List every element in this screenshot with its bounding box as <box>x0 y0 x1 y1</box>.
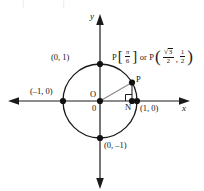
paren-close: ) <box>187 48 193 65</box>
x-coordinate-fraction: √ 3 2 <box>163 48 174 65</box>
y-axis-label: y <box>90 12 94 21</box>
point-p-annotation: P [ π 6 ] or P ( √ 3 2 , 1 2 ) <box>112 48 193 65</box>
label-point-N: N <box>125 103 131 112</box>
bracket-open: [ <box>118 49 123 64</box>
x-axis-label: x <box>182 104 186 113</box>
radicand: 3 <box>168 48 173 56</box>
sqrt-group: √ 3 <box>164 48 173 56</box>
y-coordinate-fraction: 1 2 <box>180 49 186 65</box>
label-point-left: (–1, 0) <box>30 87 53 96</box>
label-point-right: (1, 0) <box>140 104 158 113</box>
y-denominator: 2 <box>180 57 186 65</box>
y-axis-arrow-up <box>96 14 104 25</box>
point-marker-left <box>60 98 66 104</box>
y-numerator: 1 <box>180 49 186 58</box>
origin-label-zero: 0 <box>92 104 96 113</box>
radius-segment-OP <box>100 83 132 102</box>
point-marker-bottom <box>97 135 103 141</box>
label-point-bottom: (0, –1) <box>104 141 127 150</box>
annotation-p-first: P <box>112 52 117 62</box>
label-point-top: (0, 1) <box>51 53 69 62</box>
point-marker-top <box>97 61 103 67</box>
unit-circle-figure: \ / x y O 0 (0, 1) (–1, 0) (1, 0) <box>0 0 204 191</box>
label-point-P: P <box>136 75 141 84</box>
angle-denominator: 6 <box>125 57 131 65</box>
y-axis-arrow-down <box>96 178 104 189</box>
angle-fraction: π 6 <box>125 49 131 65</box>
point-marker-P <box>129 79 135 85</box>
x-denominator: 2 <box>165 58 171 66</box>
origin-label-O: O <box>90 90 96 99</box>
angle-numerator: π <box>125 49 131 58</box>
coordinate-separator: , <box>176 54 178 65</box>
x-axis-arrow-left <box>8 97 19 105</box>
annotation-or: or <box>140 52 147 62</box>
annotation-p-second: P <box>149 52 154 62</box>
paren-open: ( <box>155 48 161 65</box>
point-marker-origin <box>97 98 103 104</box>
bracket-close: ] <box>132 49 137 64</box>
